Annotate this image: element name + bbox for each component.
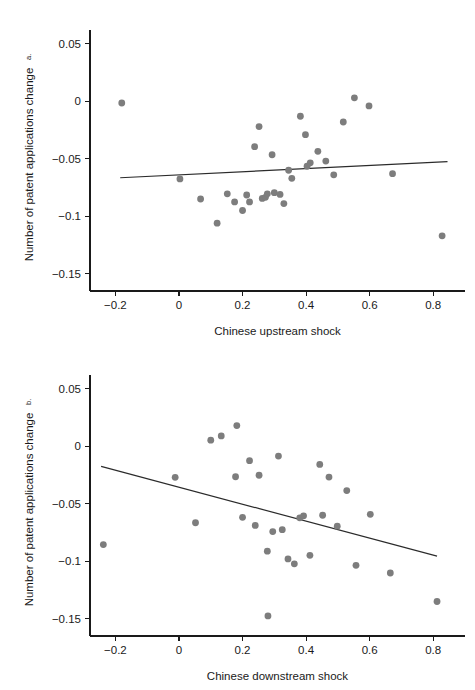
data-point [264,190,271,197]
x-tick-label-5: 0.8 [425,299,441,311]
data-point [319,512,326,519]
data-point [118,100,125,107]
x-tick-label-2: 0.2 [235,299,251,311]
y-tick-label-2: −0.05 [52,498,81,510]
data-point [439,232,446,239]
data-point [307,552,314,559]
data-point [367,511,374,518]
data-point [197,196,204,203]
data-point [387,570,394,577]
data-point [239,207,246,214]
data-point [233,422,240,429]
y-axis-title: Number of patent applications change [23,413,35,607]
y-axis-title: Number of patent applications change [23,68,35,262]
data-point [207,437,214,444]
panel-b-content: 0.050−0.05−0.1−0.15−0.200.20.40.60.8Chin… [23,375,465,682]
data-point [214,220,221,227]
data-point [285,167,292,174]
y-tick-label-4: −0.15 [52,268,81,280]
data-point [316,461,323,468]
data-point [269,151,276,158]
scatter-plot-figure: 0.050−0.05−0.1−0.15−0.200.20.40.60.8Chin… [0,0,475,690]
data-point [256,123,263,130]
data-point [291,560,298,567]
data-point [351,94,358,101]
y-tick-label-3: −0.1 [58,555,81,567]
data-point [224,190,231,197]
data-point [269,528,276,535]
y-tick-label-3: −0.1 [58,210,81,222]
x-tick-label-5: 0.8 [425,644,441,656]
panel-letter: a. [24,54,33,60]
panel-a-upstream: 0.050−0.05−0.1−0.15−0.200.20.40.60.8Chin… [0,0,475,345]
y-tick-label-0: 0.05 [59,383,81,395]
x-tick-label-3: 0.4 [298,299,315,311]
data-point [434,598,441,605]
panel-a-content: 0.050−0.05−0.1−0.15−0.200.20.40.60.8Chin… [23,30,465,337]
x-tick-label-3: 0.4 [298,644,315,656]
data-point [340,119,347,126]
x-tick-label-1: 0 [176,644,182,656]
panel-b-svg: 0.050−0.05−0.1−0.15−0.200.20.40.60.8Chin… [0,345,475,690]
data-point [326,474,333,481]
data-point [218,433,225,440]
data-point [322,158,329,165]
y-tick-label-1: 0 [75,95,81,107]
x-tick-label-0: −0.2 [104,644,127,656]
x-tick-label-1: 0 [176,299,182,311]
data-point [231,198,238,205]
y-tick-label-1: 0 [75,440,81,452]
data-point [389,170,396,177]
x-tick-label-0: −0.2 [104,299,127,311]
data-point [330,171,337,178]
fit-line [120,162,447,178]
data-point [275,453,282,460]
data-point [343,487,350,494]
y-tick-label-4: −0.15 [52,613,81,625]
data-point [256,472,263,479]
data-point [285,556,292,563]
data-point [314,148,321,155]
x-tick-label-4: 0.6 [362,299,378,311]
data-point [300,512,307,519]
data-point [288,175,295,182]
data-point [246,198,253,205]
data-point [297,113,304,120]
x-axis-title: Chinese downstream shock [207,670,349,682]
data-point [100,541,107,548]
data-point [172,474,179,481]
data-point [177,175,184,182]
data-point [264,548,271,555]
panel-b-downstream: 0.050−0.05−0.1−0.15−0.200.20.40.60.8Chin… [0,345,475,690]
data-point [307,159,314,166]
data-point [192,519,199,526]
data-point [366,102,373,109]
y-tick-label-0: 0.05 [59,38,81,50]
data-point [334,523,341,530]
data-point [252,522,259,529]
data-point [239,514,246,521]
x-tick-label-4: 0.6 [362,644,378,656]
data-point [271,189,278,196]
panel-letter: b. [24,399,33,405]
fit-line [101,466,437,556]
data-point [251,143,258,150]
data-point [243,192,250,199]
data-point [302,131,309,138]
x-axis-title: Chinese upstream shock [214,325,341,337]
y-tick-label-2: −0.05 [52,153,81,165]
x-tick-label-2: 0.2 [235,644,251,656]
panel-a-svg: 0.050−0.05−0.1−0.15−0.200.20.40.60.8Chin… [0,0,475,345]
data-point [232,473,239,480]
data-point [353,562,360,569]
data-point [279,526,286,533]
data-point [246,457,253,464]
data-point [280,200,287,207]
data-point [265,612,272,619]
data-point [277,191,284,198]
